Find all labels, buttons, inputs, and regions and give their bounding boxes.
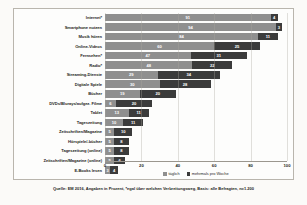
bar-track: 4822 — [105, 61, 287, 69]
bar-track: 620 — [105, 100, 287, 108]
bar-segment-mehrmals-pro-woche: 11 — [129, 109, 149, 117]
bar-row: Online-Videos6025 — [19, 42, 287, 51]
bar-row: Tageszeitung1011 — [19, 118, 287, 127]
bar-segment-mehrmals-pro-woche: 34 — [158, 71, 220, 79]
x-tick-label: 0 — [104, 163, 106, 168]
source-note: Quelle: EM 2016, Angaben in Prozent, *eg… — [13, 186, 294, 191]
bar-value-label: 28 — [183, 82, 188, 87]
bar-row: Internet*914 — [19, 13, 287, 22]
category-label: Zeitschriften/Magazine (online) — [19, 158, 105, 163]
bar-track: 4731 — [105, 52, 287, 60]
gridline — [178, 13, 179, 161]
bar-value-label: 30 — [130, 82, 135, 87]
bar-segment-taeglich: 29 — [105, 71, 158, 79]
x-tick-label: 60 — [212, 163, 217, 168]
bar-value-label: 5 — [108, 139, 110, 144]
chart-page: Internet*914Smartphone nutzen943Musik hö… — [0, 0, 307, 205]
category-label: Streaming-Dienste — [19, 72, 105, 77]
bar-segment-taeglich: 6 — [105, 100, 116, 108]
category-label: Online-Videos — [19, 44, 105, 49]
bar-track: 8411 — [105, 33, 287, 41]
bar-row: Tablet1311 — [19, 108, 287, 117]
bar-segment-mehrmals-pro-woche: 20 — [116, 100, 152, 108]
bar-rows-container: Internet*914Smartphone nutzen943Musik hö… — [19, 13, 287, 161]
category-label: Tageszeitung (online) — [19, 148, 105, 153]
bar-segment-taeglich: 5 — [105, 128, 114, 136]
bar-segment-mehrmals-pro-woche: 25 — [214, 42, 260, 50]
bar-value-label: 10 — [112, 120, 117, 125]
bar-segment-taeglich: 30 — [105, 80, 160, 88]
x-tick-label: 20 — [139, 163, 144, 168]
bar-segment-taeglich: 48 — [105, 61, 192, 69]
bar-row: Hörspiele/-bücher58 — [19, 137, 287, 146]
category-label: Hörspiele/-bücher — [19, 139, 105, 144]
bar-row: Zeitschriften/Magazine510 — [19, 127, 287, 136]
bar-segment-mehrmals-pro-woche: 20 — [140, 90, 176, 98]
category-label: Tablet — [19, 110, 105, 115]
bar-value-label: 84 — [179, 34, 184, 39]
bar-track: 58 — [105, 138, 287, 146]
bar-row: Smartphone nutzen943 — [19, 23, 287, 32]
bar-track: 1920 — [105, 90, 287, 98]
bar-row: Bücher1920 — [19, 89, 287, 98]
x-tick-label: 100 — [284, 163, 291, 168]
bar-segment-mehrmals-pro-woche: 8 — [114, 138, 129, 146]
category-label: Musik hören — [19, 34, 105, 39]
bar-segment-mehrmals-pro-woche: 8 — [114, 147, 129, 155]
gridline — [105, 13, 106, 161]
bar-segment-mehrmals-pro-woche: 4 — [271, 14, 278, 22]
category-label: Tageszeitung — [19, 120, 105, 125]
bar-segment-mehrmals-pro-woche: 31 — [191, 52, 247, 60]
bar-row: Streaming-Dienste2934 — [19, 70, 287, 79]
category-label: E-Books lesen — [19, 168, 105, 173]
bar-value-label: 5 — [108, 148, 110, 153]
bar-track: 3028 — [105, 80, 287, 88]
x-tick-label: 40 — [175, 163, 180, 168]
category-label: Digitale Spiele — [19, 82, 105, 87]
category-label: Radio* — [19, 63, 105, 68]
chart-legend: täglichmehrmals pro Woche — [105, 172, 287, 176]
bar-segment-taeglich: 5 — [105, 138, 114, 146]
bar-value-label: 4 — [273, 15, 275, 20]
bar-value-label: 34 — [186, 72, 191, 77]
gridline — [141, 13, 142, 161]
bar-row: Fernsehen*4731 — [19, 51, 287, 60]
bar-value-label: 91 — [186, 15, 191, 20]
bar-value-label: 8 — [120, 139, 122, 144]
bar-value-label: 6 — [109, 101, 111, 106]
x-axis: 020406080100 — [105, 161, 287, 171]
bar-segment-taeglich: 5 — [105, 147, 114, 155]
bar-segment-taeglich: 84 — [105, 33, 258, 41]
category-label: Fernsehen* — [19, 53, 105, 58]
bar-value-label: 13 — [115, 110, 120, 115]
bar-row: DVDs/Blurays/aufgez. Filme620 — [19, 99, 287, 108]
bar-value-label: 11 — [266, 34, 270, 39]
legend-label: täglich — [168, 172, 179, 176]
bar-value-label: 48 — [146, 63, 151, 68]
bar-value-label: 10 — [121, 129, 126, 134]
category-label: Internet* — [19, 15, 105, 20]
legend-item: täglich — [163, 172, 179, 176]
gridline — [251, 13, 252, 161]
bar-row: Musik hören8411 — [19, 32, 287, 41]
bar-track: 1311 — [105, 109, 287, 117]
bar-segment-taeglich: 19 — [105, 90, 140, 98]
gridline — [287, 13, 288, 161]
bar-segment-taeglich: 13 — [105, 109, 129, 117]
bar-track: 58 — [105, 147, 287, 155]
legend-swatch-icon — [163, 172, 166, 175]
bar-value-label: 94 — [188, 25, 193, 30]
bar-value-label: 60 — [157, 44, 162, 49]
legend-swatch-icon — [187, 172, 190, 175]
bar-row: Radio*4822 — [19, 61, 287, 70]
bar-track: 914 — [105, 14, 287, 22]
bar-track: 510 — [105, 128, 287, 136]
bar-row: Tageszeitung (online)58 — [19, 146, 287, 155]
bar-value-label: 47 — [145, 53, 150, 58]
category-label: Bücher — [19, 91, 105, 96]
bar-value-label: 11 — [137, 110, 141, 115]
gridline — [214, 13, 215, 161]
bar-track: 6025 — [105, 42, 287, 50]
bar-track: 943 — [105, 23, 287, 31]
bar-value-label: 31 — [216, 53, 221, 58]
